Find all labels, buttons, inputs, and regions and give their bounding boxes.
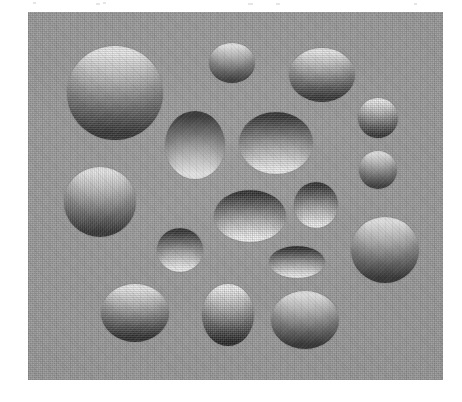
small-circle-right-middle	[359, 151, 397, 189]
flat-dimple-lower-center-texture	[269, 246, 325, 278]
ellipse-top-right-edge	[288, 47, 356, 103]
small-circle-right-middle-edge	[358, 150, 398, 190]
large-sphere-top-left	[67, 46, 163, 140]
sphere-right-lower-lateral-shading	[351, 217, 419, 283]
dimple-center-left	[165, 111, 225, 179]
sphere-right-lower-texture	[351, 217, 419, 283]
small-circle-right-middle-lateral-shading	[359, 151, 397, 189]
ellipse-bottom-right-lateral-shading	[271, 291, 339, 349]
egg-bottom-center-edge	[201, 283, 255, 347]
dimple-center-left-texture	[165, 111, 225, 179]
dimple-center-lower-texture	[214, 190, 286, 242]
sphere-right-lower	[351, 217, 419, 283]
ellipse-top-right-texture	[289, 48, 355, 102]
egg-bottom-center	[202, 284, 254, 346]
dimple-small-right-center	[294, 182, 338, 228]
scan-artifact-speck	[96, 3, 100, 5]
ellipse-bottom-right-edge	[270, 290, 340, 350]
small-circle-right-upper	[358, 98, 398, 138]
sphere-left-middle-edge	[63, 166, 137, 238]
figure-root	[0, 0, 462, 402]
dimple-small-left-lower-texture	[157, 228, 203, 272]
egg-bottom-center-texture	[202, 284, 254, 346]
ellipse-bottom-right-texture	[271, 291, 339, 349]
large-sphere-top-left-lateral-shading	[67, 46, 163, 140]
dimple-center-lower-edge	[213, 189, 287, 243]
scan-artifact-speck	[103, 2, 106, 4]
small-sphere-top-center-lateral-shading	[209, 43, 255, 83]
small-sphere-top-center-edge	[208, 42, 256, 84]
ellipse-top-right-lateral-shading	[289, 48, 355, 102]
flat-dimple-lower-center	[269, 246, 325, 278]
sphere-bottom-left-lateral-shading	[101, 284, 169, 342]
dimple-small-right-center-lateral-shading	[294, 182, 338, 228]
small-circle-right-upper-lateral-shading	[358, 98, 398, 138]
dimple-center-wide	[239, 112, 313, 174]
stimulus-panel	[28, 12, 443, 380]
ellipse-top-right	[289, 48, 355, 102]
dimple-small-left-lower-lateral-shading	[157, 228, 203, 272]
sphere-right-lower-edge	[350, 216, 420, 284]
sphere-left-middle	[64, 167, 136, 237]
flat-dimple-lower-center-edge	[268, 245, 326, 279]
flat-dimple-lower-center-lateral-shading	[269, 246, 325, 278]
scan-artifact-speck	[414, 3, 417, 5]
scan-artifact-speck	[248, 3, 253, 5]
dimple-center-wide-texture	[239, 112, 313, 174]
large-sphere-top-left-texture	[67, 46, 163, 140]
small-circle-right-middle-texture	[359, 151, 397, 189]
dimple-center-wide-lateral-shading	[239, 112, 313, 174]
ellipse-bottom-right	[271, 291, 339, 349]
sphere-left-middle-texture	[64, 167, 136, 237]
large-sphere-top-left-edge	[66, 45, 164, 141]
egg-bottom-center-lateral-shading	[202, 284, 254, 346]
sphere-bottom-left-edge	[100, 283, 170, 343]
dimple-small-left-lower	[157, 228, 203, 272]
dimple-center-left-edge	[164, 110, 226, 180]
sphere-bottom-left-texture	[101, 284, 169, 342]
scan-artifact-speck	[33, 2, 36, 4]
small-circle-right-upper-texture	[358, 98, 398, 138]
small-circle-right-upper-edge	[357, 97, 399, 139]
sphere-left-middle-lateral-shading	[64, 167, 136, 237]
sphere-bottom-left	[101, 284, 169, 342]
small-sphere-top-center-texture	[209, 43, 255, 83]
dimple-small-right-center-texture	[294, 182, 338, 228]
dimple-center-wide-edge	[238, 111, 314, 175]
dimple-center-lower	[214, 190, 286, 242]
dimple-center-lower-lateral-shading	[214, 190, 286, 242]
scan-artifact-speck	[276, 3, 280, 5]
dimple-center-left-lateral-shading	[165, 111, 225, 179]
dimple-small-right-center-edge	[293, 181, 339, 229]
dimple-small-left-lower-edge	[156, 227, 204, 273]
small-sphere-top-center	[209, 43, 255, 83]
